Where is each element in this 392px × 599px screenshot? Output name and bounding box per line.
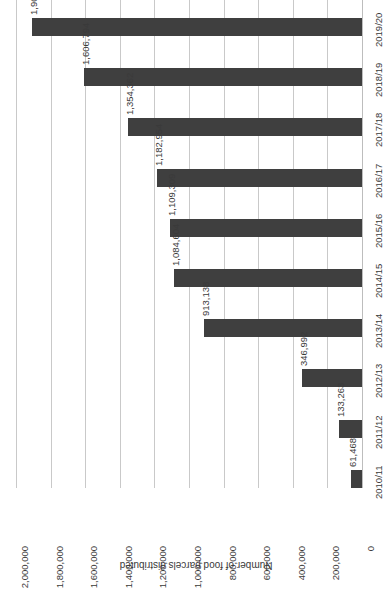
category-label: 2015/16	[374, 213, 384, 247]
category-label: 2012/13	[374, 364, 384, 398]
bar-value-label: 1,109,309	[167, 174, 177, 216]
bar-chart: 1,909,3882019/201,606,7942018/191,354,36…	[0, 0, 392, 599]
bar-value-label: 1,606,794	[81, 23, 91, 65]
bar[interactable]	[339, 420, 362, 438]
bar-value-label: 913,138	[201, 282, 211, 316]
gridline	[16, 0, 17, 488]
category-label: 2014/15	[374, 264, 384, 298]
category-label: 2011/12	[374, 415, 384, 449]
bar-value-label: 1,354,362	[125, 73, 135, 115]
bar[interactable]	[204, 319, 362, 337]
category-label: 2013/14	[374, 314, 384, 348]
plot-area: 1,909,3882019/201,606,7942018/191,354,36…	[0, 0, 392, 488]
gridline	[51, 0, 52, 488]
category-label: 2017/18	[374, 113, 384, 147]
bar[interactable]	[351, 470, 362, 488]
bar-value-label: 1,084,604	[171, 224, 181, 266]
gridline	[362, 0, 363, 488]
bar-value-label: 133,263	[336, 382, 346, 416]
category-label: 2016/17	[374, 163, 384, 197]
value-axis-title: Number of food parcels distributed	[0, 560, 392, 571]
category-label: 2018/19	[374, 63, 384, 97]
bar[interactable]	[170, 219, 362, 237]
category-label: 2019/20	[374, 13, 384, 47]
bar-value-label: 1,182,954	[154, 123, 164, 165]
bar[interactable]	[157, 169, 362, 187]
bar[interactable]	[302, 369, 362, 387]
bar-value-label: 61,468	[348, 438, 358, 467]
bar-value-label: 346,992	[299, 332, 309, 366]
axis-tick-label: 0	[366, 546, 376, 551]
bar-value-label: 1,909,388	[29, 0, 39, 15]
value-axis-tick-labels: 0200,000400,000600,000800,0001,000,0001,…	[0, 488, 392, 558]
